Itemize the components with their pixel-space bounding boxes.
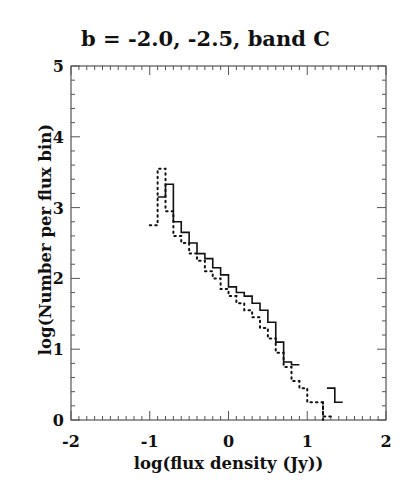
data-series — [150, 169, 343, 420]
x-tick-label: -1 — [141, 432, 159, 451]
x-tick-label: 2 — [380, 432, 391, 451]
x-tick-label: 0 — [223, 432, 234, 451]
plot-area: -2-1012012345 — [0, 0, 411, 502]
axis-ticks: -2-1012012345 — [53, 57, 392, 451]
y-tick-label: 5 — [53, 57, 64, 76]
x-tick-label: -2 — [62, 432, 80, 451]
solid-histogram — [158, 184, 343, 402]
plot-frame — [71, 66, 386, 420]
y-tick-label: 1 — [53, 340, 64, 359]
y-tick-label: 3 — [53, 199, 64, 218]
y-tick-label: 0 — [53, 411, 64, 430]
y-tick-label: 4 — [53, 128, 64, 147]
x-tick-label: 1 — [302, 432, 313, 451]
y-tick-label: 2 — [53, 269, 64, 288]
axes-frame — [71, 66, 386, 420]
